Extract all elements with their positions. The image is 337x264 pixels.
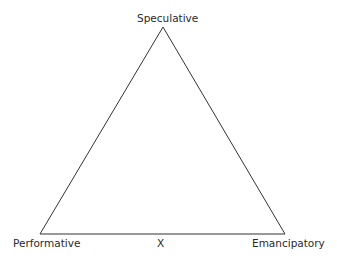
center-marker-label: X	[157, 237, 164, 249]
triangle-diagram	[0, 0, 337, 264]
vertex-label-performative: Performative	[13, 237, 80, 249]
vertex-label-emancipatory: Emancipatory	[252, 237, 325, 249]
vertex-label-speculative: Speculative	[137, 12, 198, 24]
triangle-outline	[40, 27, 285, 234]
